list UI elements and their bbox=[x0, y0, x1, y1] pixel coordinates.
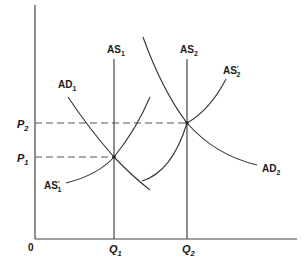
ad-as-diagram: 0 P2 P1 Q1 Q2 AS1 AS2 AD1 AD2 AS'1 AS'2 bbox=[0, 0, 305, 264]
ad1-curve bbox=[68, 97, 150, 190]
p2-label: P2 bbox=[17, 118, 29, 133]
q1-label: Q1 bbox=[109, 243, 122, 258]
diagram-svg: 0 P2 P1 Q1 Q2 AS1 AS2 AD1 AD2 AS'1 AS'2 bbox=[0, 0, 305, 264]
q2-label: Q2 bbox=[182, 243, 196, 258]
equilibrium-point-1 bbox=[112, 155, 116, 159]
origin-label: 0 bbox=[28, 242, 34, 253]
as1-prime-curve bbox=[66, 97, 150, 183]
as2-prime-label: AS'2 bbox=[223, 65, 241, 78]
ad2-label: AD2 bbox=[262, 163, 280, 176]
as2-prime-curve bbox=[142, 79, 226, 181]
equilibrium-point-2 bbox=[185, 121, 189, 125]
as1-label: AS1 bbox=[107, 44, 125, 57]
p1-label: P1 bbox=[17, 152, 29, 167]
ad1-label: AD1 bbox=[58, 79, 76, 92]
as1-prime-label: AS'1 bbox=[44, 180, 62, 193]
ad2-curve bbox=[143, 37, 257, 165]
as2-label: AS2 bbox=[180, 44, 198, 57]
